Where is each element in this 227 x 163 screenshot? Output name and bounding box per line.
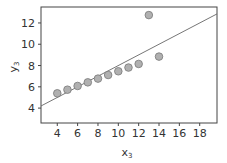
data-point	[74, 82, 82, 90]
data-point	[115, 67, 123, 75]
data-point	[84, 79, 92, 87]
y-axis-ticks: 4681012	[21, 17, 41, 115]
y-tick-label: 12	[21, 17, 35, 30]
data-point	[104, 71, 112, 79]
x-tick-label: 6	[74, 127, 81, 140]
x-tick-label: 4	[54, 127, 61, 140]
x-tick-label: 16	[172, 127, 186, 140]
y-tick-label: 8	[28, 60, 35, 73]
y-tick-label: 6	[28, 81, 35, 94]
data-point	[94, 75, 102, 83]
scatter-chart: 4681012141618 4681012 x3 y3	[0, 0, 227, 163]
x-tick-label: 10	[111, 127, 125, 140]
data-point	[64, 86, 72, 94]
x-axis-label: x3	[122, 146, 133, 160]
x-tick-label: 8	[94, 127, 101, 140]
data-point	[135, 60, 143, 68]
data-points	[53, 11, 162, 97]
data-point	[125, 64, 133, 72]
data-point	[145, 11, 153, 19]
x-axis-ticks: 4681012141618	[54, 123, 207, 140]
data-point	[155, 53, 163, 61]
y-tick-label: 4	[28, 102, 35, 115]
x-tick-label: 18	[193, 127, 207, 140]
y-tick-label: 10	[21, 38, 35, 51]
data-point	[53, 90, 61, 98]
y-axis-label: y3	[7, 62, 21, 73]
x-tick-label: 12	[132, 127, 146, 140]
x-tick-label: 14	[152, 127, 166, 140]
